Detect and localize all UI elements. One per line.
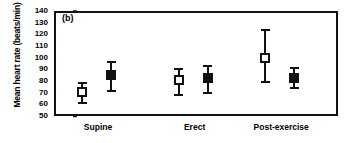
y-axis-tick-labels: 5060708090100110120130140 (24, 8, 48, 118)
error-bar-cap-lower (290, 87, 299, 89)
error-bar-cap-lower (203, 92, 212, 94)
error-bar-cap-upper (107, 61, 116, 63)
chart-figure: Mean heart rate (beats/min) 506070809010… (0, 0, 355, 143)
error-bar-cap-upper (290, 67, 299, 69)
x-label-post-exercise: Post-exercise (254, 122, 309, 132)
y-axis-title: Mean heart rate (beats/min) (12, 0, 22, 120)
marker-filled-square (289, 73, 299, 83)
error-bar-cap-upper (203, 65, 212, 67)
error-bar-cap-upper (174, 68, 183, 70)
data-layer (54, 11, 338, 116)
y-tick-label: 50 (39, 112, 48, 120)
error-bar-cap-lower (261, 81, 270, 83)
x-axis-category-labels: SupineErectPost-exercise (54, 122, 338, 136)
y-tick-label: 60 (39, 100, 48, 108)
y-tick-label: 110 (35, 42, 48, 50)
x-label-erect: Erect (184, 122, 205, 132)
error-bar-cap-lower (107, 90, 116, 92)
y-tick-label: 80 (39, 77, 48, 85)
marker-open-square (260, 53, 270, 63)
error-bar-cap-upper (78, 82, 87, 84)
error-bar-cap-lower (174, 94, 183, 96)
y-tick-label: 100 (35, 54, 48, 62)
marker-open-square (174, 75, 184, 85)
x-label-supine: Supine (84, 122, 112, 132)
marker-open-square (77, 87, 87, 97)
error-bar-cap-upper (261, 29, 270, 31)
y-tick-label: 140 (35, 7, 48, 15)
marker-filled-square (203, 73, 213, 83)
y-tick-label: 70 (39, 89, 48, 97)
y-tick-label: 90 (39, 65, 48, 73)
marker-filled-square (106, 70, 116, 80)
error-bar-cap-lower (78, 102, 87, 104)
y-tick-label: 130 (35, 19, 48, 27)
y-tick-label: 120 (35, 30, 48, 38)
